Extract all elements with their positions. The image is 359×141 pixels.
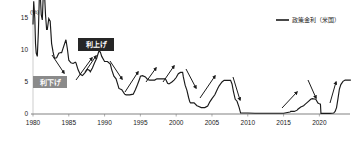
annotation-arrow-up [200,76,215,98]
x-tick-label: 1995 [133,119,148,126]
annotation-arrow-up [330,82,336,103]
x-tick-label: 2000 [169,119,184,126]
x-tick-label: 2005 [205,119,220,126]
annotation-arrow-up [282,92,297,108]
y-tick-label: 15 [21,14,29,21]
x-tick-label: 1980 [26,119,41,126]
legend-label: 政策金利（米国） [292,16,340,24]
annotation-label: 利上げ [86,40,108,49]
x-tick-label: 2020 [312,119,327,126]
y-tick-label: 0 [24,110,28,117]
x-tick-label: 2015 [276,119,291,126]
annotation-cut-box: 利下げ [33,76,67,88]
policy-rate-chart: (%)0510151980198519901995200020052010201… [0,0,359,141]
annotation-hike-box: 利上げ [78,38,114,51]
annotation-arrow-down [52,55,64,73]
annotation-arrow-up [163,66,174,82]
x-tick-label: 2010 [241,119,256,126]
annotation-arrow-down [308,80,316,98]
y-tick-label: 10 [21,46,29,53]
chart-canvas: (%)0510151980198519901995200020052010201… [0,0,359,141]
y-tick-label: 5 [24,78,28,85]
x-tick-label: 1985 [62,119,77,126]
legend: 政策金利（米国） [276,16,340,24]
annotation-label: 利下げ [40,78,62,87]
x-tick-label: 1990 [97,119,112,126]
annotation-arrow-down [186,69,196,88]
